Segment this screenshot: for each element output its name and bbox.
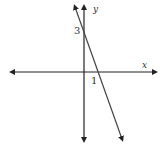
graph: y x 3 1 [0,0,162,149]
x-intercept-label: 1 [91,75,97,86]
x-axis-label: x [142,60,147,70]
plotted-line [75,7,122,139]
y-intercept-label: 3 [74,25,80,36]
y-axis-label: y [92,4,99,14]
